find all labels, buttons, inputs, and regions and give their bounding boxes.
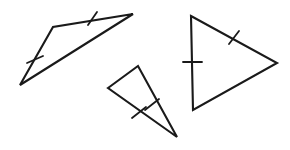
shapes-layer (20, 12, 277, 137)
right-triangle-outline (191, 16, 277, 110)
triangles-diagram (0, 0, 290, 150)
geometry-figure-canvas (0, 0, 290, 150)
left-triangle (20, 12, 133, 85)
middle-triangle-tick-right (145, 99, 159, 110)
left-triangle-tick-top (88, 12, 97, 25)
right-triangle (183, 16, 277, 110)
middle-triangle (108, 66, 177, 137)
left-triangle-outline (20, 14, 133, 85)
middle-triangle-outline (108, 66, 177, 137)
